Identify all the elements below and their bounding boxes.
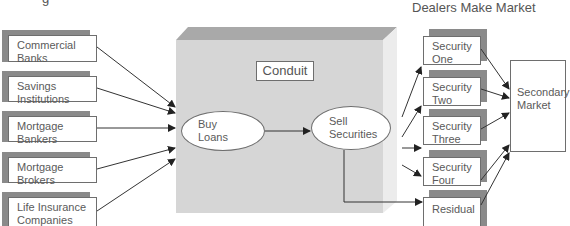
flow-arrows — [0, 0, 570, 226]
